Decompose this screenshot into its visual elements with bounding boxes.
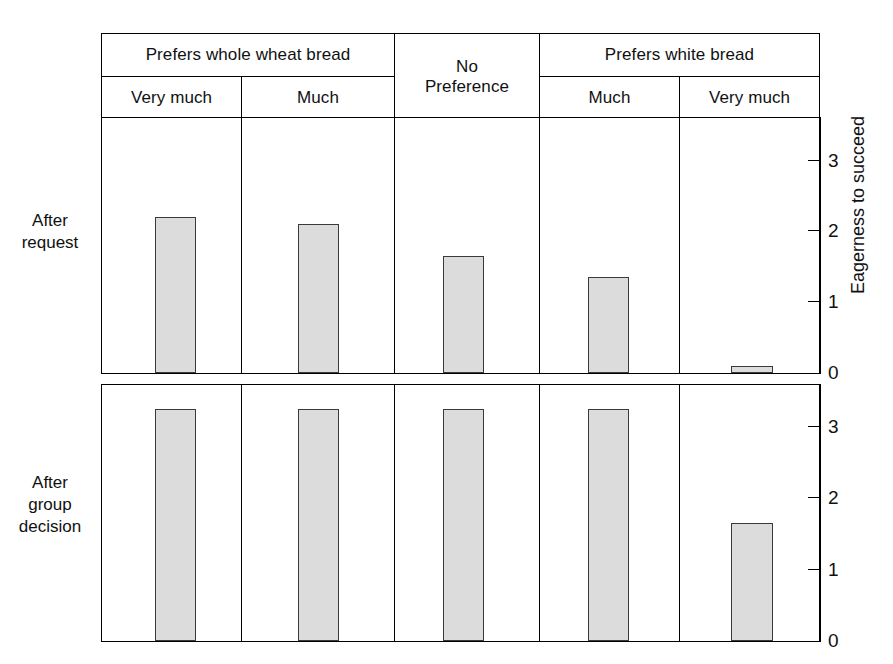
row-label-after-group-decision: After group decision <box>2 472 98 538</box>
y-tick-label: 0 <box>828 631 850 650</box>
column-separator-4 <box>679 385 680 641</box>
header-no-preference-line1: No <box>456 57 478 77</box>
header-sub-wb-very-much: Very much <box>679 76 819 119</box>
row-label-after-group-line1: After <box>2 472 98 494</box>
bar-after-group-no-preference <box>443 409 484 641</box>
bar-after-request-white-much <box>588 277 629 373</box>
row-label-after-group-line3: decision <box>2 516 98 538</box>
y-tick-label: 0 <box>828 363 850 382</box>
y-tick-label: 3 <box>828 417 850 436</box>
bar-after-request-white-very-much <box>731 366 773 373</box>
row-label-after-request-line1: After <box>2 210 98 232</box>
column-separator-2 <box>394 385 395 641</box>
column-separator-4 <box>679 118 680 373</box>
bar-after-request-whole-wheat-very-much <box>155 217 196 373</box>
chart-figure: Prefers whole wheat bread No Preference … <box>0 0 893 664</box>
row-label-after-group-line2: group <box>2 494 98 516</box>
y-tick-mark <box>808 426 821 427</box>
y-tick-mark <box>808 569 821 570</box>
column-separator-1 <box>241 118 242 373</box>
bar-after-request-no-preference <box>443 256 484 373</box>
header-group-no-preference: No Preference <box>394 34 539 119</box>
row-label-after-request: After request <box>2 210 98 254</box>
y-tick-label: 1 <box>828 292 850 311</box>
y-axis-line-top <box>820 117 821 374</box>
plot-panel-after-request <box>101 117 820 374</box>
header-group-prefers-white: Prefers white bread <box>539 34 819 76</box>
y-tick-label: 2 <box>828 488 850 507</box>
y-tick-mark <box>808 230 821 231</box>
column-separator-2 <box>394 118 395 373</box>
header-group-prefers-whole-wheat: Prefers whole wheat bread <box>102 34 394 76</box>
y-axis-line-bottom <box>820 384 821 642</box>
y-tick-mark <box>808 160 821 161</box>
header-sub-ww-much: Much <box>241 76 394 119</box>
header-sub-wb-much: Much <box>539 76 679 119</box>
column-separator-3 <box>539 385 540 641</box>
y-tick-label: 1 <box>828 560 850 579</box>
bar-after-group-whole-wheat-much <box>298 409 339 641</box>
row-label-after-request-line2: request <box>2 232 98 254</box>
header-no-preference-line2: Preference <box>425 77 509 97</box>
column-separator-3 <box>539 118 540 373</box>
bar-after-group-white-very-much <box>731 523 773 641</box>
y-axis-title: Eagerness to succeed <box>846 64 870 294</box>
column-separator-1 <box>241 385 242 641</box>
header-table: Prefers whole wheat bread No Preference … <box>101 33 820 118</box>
bar-after-group-whole-wheat-very-much <box>155 409 196 641</box>
y-tick-mark <box>808 301 821 302</box>
header-sub-ww-very-much: Very much <box>102 76 241 119</box>
y-tick-mark <box>808 497 821 498</box>
plot-panel-after-group-decision <box>101 384 820 642</box>
bar-after-group-white-much <box>588 409 629 641</box>
bar-after-request-whole-wheat-much <box>298 224 339 373</box>
